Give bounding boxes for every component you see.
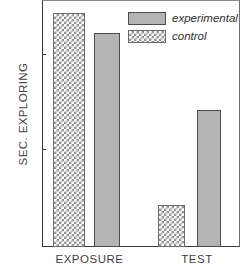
legend-swatch-experimental — [128, 12, 166, 25]
legend-label-control: control — [172, 30, 207, 42]
legend-swatch-control — [128, 30, 166, 43]
bar-test-control — [158, 205, 185, 247]
y-tick-mark-200 — [42, 54, 46, 55]
x-tick-label-exposure: EXPOSURE — [42, 253, 137, 265]
y-axis-label: SEC. EXPLORING — [17, 39, 29, 189]
bar-exposure-experimental — [94, 33, 120, 247]
x-tick-label-test: TEST — [152, 253, 242, 265]
y-tick-mark-100 — [42, 149, 46, 150]
bar-chart: 200 100 SEC. EXPLORING EXPOSURE TEST exp… — [0, 0, 245, 276]
bar-test-experimental — [197, 110, 221, 247]
bar-exposure-control — [53, 13, 85, 247]
legend-label-experimental: experimental — [172, 12, 238, 24]
